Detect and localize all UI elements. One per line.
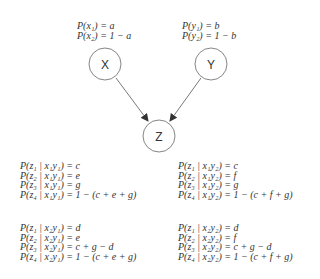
edge-y-z: [170, 78, 201, 121]
node-y: Y: [195, 48, 227, 80]
node-y-label: Y: [207, 58, 215, 72]
cpt-x2y2: P(z₁ | x₂y₂) = d P(z₂ | x₂y₂) = f P(z₃ |…: [178, 223, 293, 261]
node-x: X: [89, 48, 121, 80]
cpt-x1y2: P(z₁ | x₁y₂) = c P(z₂ | x₁y₂) = f P(z₃ |…: [178, 161, 293, 199]
cpt-row: P(z₄ | x₂y₁) = 1 − (c + e + g): [20, 252, 136, 262]
cpt-row: P(z₄ | x₂y₂) = 1 − (c + f + g): [178, 252, 293, 262]
cpt-x1y1: P(z₁ | x₁y₁) = c P(z₂ | x₁y₁) = e P(z₃ |…: [20, 161, 136, 199]
cpt-row: P(z₄ | x₁y₂) = 1 − (c + f + g): [178, 190, 293, 200]
cpt-x2y1: P(z₁ | x₂y₁) = d P(z₂ | x₂y₁) = e P(z₃ |…: [20, 223, 136, 261]
node-z: Z: [143, 120, 175, 152]
cpt-row: P(z₄ | x₁y₁) = 1 − (c + e + g): [20, 190, 136, 200]
node-x-label: X: [101, 58, 109, 72]
edge-x-z: [116, 78, 148, 121]
node-z-label: Z: [155, 130, 162, 144]
